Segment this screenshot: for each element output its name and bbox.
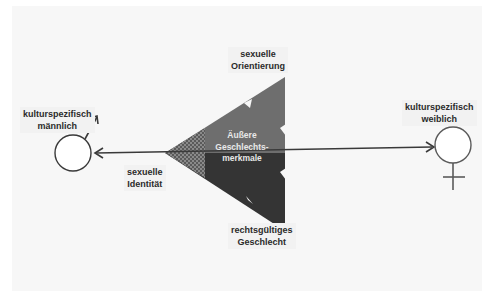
bottom-label-legal-sex: rechtsgültiges Geschlecht — [228, 223, 296, 249]
male-label-line1: kulturspezifisch — [23, 108, 92, 120]
top-label-line2: Orientierung — [231, 60, 285, 72]
female-label-line2: weiblich — [405, 113, 474, 125]
bottom-label-line2: Geschlecht — [231, 236, 293, 248]
triangle-lower-half — [165, 153, 285, 231]
center-label-line2: Geschlechts- — [200, 142, 284, 154]
axis-label-line1: sexuelle — [127, 166, 163, 178]
center-label-external-sex-characteristics: Äußere Geschlechts- merkmale — [200, 130, 284, 165]
female-label: kulturspezifisch weiblich — [402, 100, 477, 126]
male-label: kulturspezifisch männlich — [20, 107, 95, 133]
female-label-line1: kulturspezifisch — [405, 101, 474, 113]
bottom-label-line1: rechtsgültiges — [231, 224, 293, 236]
male-label-line2: männlich — [23, 120, 92, 132]
center-label-line1: Äußere — [200, 130, 284, 142]
axis-label-line2: Identität — [127, 178, 163, 190]
top-label-sexual-orientation: sexuelle Orientierung — [228, 47, 288, 73]
hatched-tip — [165, 128, 205, 178]
center-label-line3: merkmale — [200, 153, 284, 165]
axis-label-sexual-identity: sexuelle Identität — [124, 165, 166, 191]
top-label-line1: sexuelle — [231, 48, 285, 60]
female-symbol-icon — [435, 127, 471, 190]
